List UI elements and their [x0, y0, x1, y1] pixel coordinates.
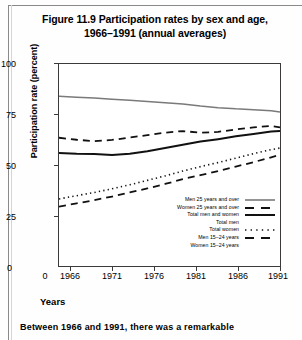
- figure-page: Figure 11.9 Participation rates by sex a…: [0, 0, 302, 340]
- legend-item-6: Women 15–24 years: [118, 242, 276, 250]
- chart-series-line: [59, 96, 280, 112]
- legend-label-1: Women 25 years and over: [177, 204, 244, 212]
- figure-title-line-2: 1966–1991 (annual averages): [18, 26, 292, 40]
- y-tick-label-0: 0: [0, 263, 12, 273]
- legend-item-5: Men 15–24 years: [118, 234, 276, 242]
- figure-title-line-1: Figure 11.9 Participation rates by sex a…: [42, 13, 268, 25]
- legend-swatch-dotted: [244, 226, 276, 234]
- x-tick-label-1986: 1986: [228, 271, 248, 281]
- y-tick-label-100: 100: [0, 59, 16, 69]
- legend-label-2: Total men and women: [187, 211, 244, 219]
- x-tick-label-1971: 1971: [102, 271, 122, 281]
- legend-label-3: Total men: [216, 219, 244, 227]
- legend-swatch-none-women1524: [244, 242, 276, 250]
- legend-label-0: Men 25 years and over: [185, 196, 244, 204]
- y-tick-label-25: 25: [0, 212, 16, 222]
- page-rule-left: [8, 5, 9, 340]
- legend-item-2: Total men and women: [118, 211, 276, 219]
- legend-item-4: Total women: [118, 226, 276, 234]
- y-tick-label-50: 50: [0, 161, 16, 171]
- page-rule-left-secondary: [11, 5, 12, 340]
- x-tick-label-1976: 1976: [144, 271, 164, 281]
- chart-series-line: [59, 126, 280, 141]
- figure-title: Figure 11.9 Participation rates by sex a…: [18, 12, 292, 40]
- y-tick-label-75: 75: [0, 110, 16, 120]
- legend-item-1: Women 25 years and over: [118, 204, 276, 212]
- chart-legend: Men 25 years and over Women 25 years and…: [118, 196, 276, 249]
- legend-label-5: Men 15–24 years: [198, 234, 244, 242]
- x-tick-label-1981: 1981: [186, 271, 206, 281]
- x-axis-title: Years: [40, 296, 65, 307]
- legend-label-6: Women 15–24 years: [190, 242, 244, 250]
- x-tick-label-1966: 1966: [60, 271, 80, 281]
- legend-swatch-dashed-long-women25: [244, 204, 276, 212]
- page-rule-top: [8, 5, 302, 6]
- legend-swatch-solid-black-bold: [244, 211, 276, 219]
- x-tick-label-1991: 1991: [268, 271, 288, 281]
- legend-label-4: Total women: [209, 226, 244, 234]
- legend-item-0: Men 25 years and over: [118, 196, 276, 204]
- x-tick-label-zero: 0: [42, 271, 47, 281]
- legend-swatch-dashed-long-men1524: [244, 234, 276, 242]
- body-paragraph: Between 1966 and 1991, there was a remar…: [20, 322, 288, 332]
- legend-swatch-none-total-men: [244, 219, 276, 227]
- y-axis-title: Participation rate (percent): [29, 21, 39, 181]
- legend-item-3: Total men: [118, 219, 276, 227]
- chart-series-line: [59, 148, 280, 199]
- chart-series-line: [59, 131, 280, 155]
- legend-swatch-solid-gray: [244, 196, 276, 204]
